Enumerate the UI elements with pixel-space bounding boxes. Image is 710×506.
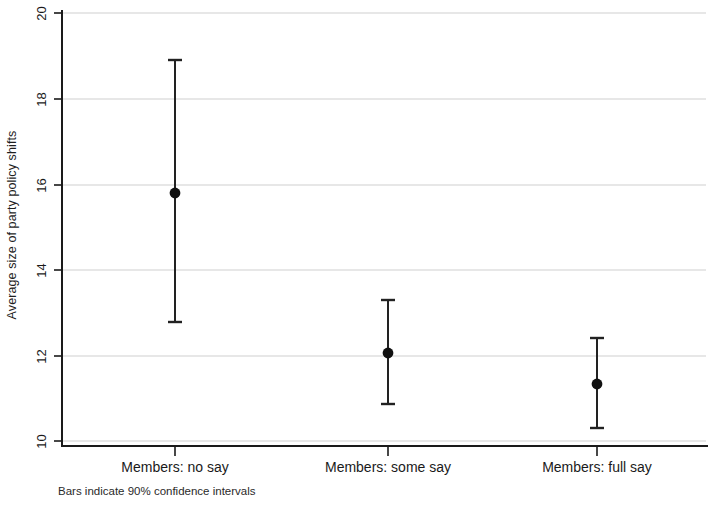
plot-area (0, 0, 710, 506)
data-point-group-3 (590, 338, 604, 428)
x-axis-ticks (175, 446, 597, 456)
data-point-marker-1 (170, 188, 181, 199)
x-tick-label-3: Members: full say (542, 459, 652, 475)
y-axis-ticks (54, 13, 62, 441)
axis-spines (61, 10, 708, 446)
x-tick-label-1: Members: no say (121, 459, 228, 475)
chart-figure: Average size of party policy shifts 20 1… (0, 0, 710, 506)
chart-footnote: Bars indicate 90% confidence intervals (58, 485, 256, 497)
data-point-marker-2 (383, 348, 394, 359)
x-tick-label-2: Members: some say (325, 459, 451, 475)
data-series (168, 60, 604, 428)
gridlines (62, 13, 706, 441)
data-point-marker-3 (592, 379, 603, 390)
data-point-group-2 (381, 300, 395, 404)
